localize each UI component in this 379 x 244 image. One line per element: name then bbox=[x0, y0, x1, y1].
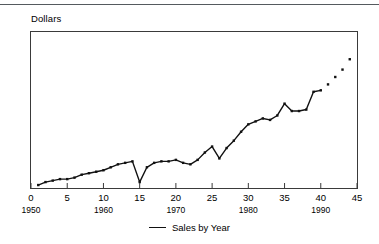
data-point-marker bbox=[341, 68, 343, 70]
data-point-marker bbox=[37, 184, 39, 186]
x-axis-year-label: 1990 bbox=[311, 205, 330, 215]
x-axis-tick-label: 45 bbox=[352, 192, 363, 203]
data-point-marker bbox=[298, 110, 300, 112]
x-axis-tick-marks bbox=[31, 183, 357, 188]
data-point-marker bbox=[291, 110, 293, 112]
chart-legend: Sales by Year bbox=[0, 222, 379, 233]
legend-series-label: Sales by Year bbox=[172, 222, 230, 233]
data-point-marker bbox=[211, 145, 213, 147]
data-point-marker bbox=[240, 131, 242, 133]
data-point-marker bbox=[269, 119, 271, 121]
data-point-marker bbox=[276, 114, 278, 116]
top-divider-rule bbox=[0, 4, 379, 5]
data-point-marker bbox=[117, 163, 119, 165]
data-point-marker bbox=[102, 169, 104, 171]
series-line-sales-by-year bbox=[38, 90, 321, 185]
chart-figure: Dollars 051015202530354045 1950196019701… bbox=[0, 0, 379, 244]
x-axis-tick-label: 20 bbox=[171, 192, 182, 203]
data-point-marker bbox=[247, 123, 249, 125]
data-point-marker bbox=[218, 157, 220, 159]
data-point-marker bbox=[327, 83, 329, 85]
data-point-marker bbox=[52, 179, 54, 181]
data-point-marker bbox=[262, 117, 264, 119]
data-point-marker bbox=[349, 58, 351, 60]
x-axis-tick-label: 5 bbox=[65, 192, 70, 203]
x-axis-year-label: 1950 bbox=[22, 205, 41, 215]
data-point-marker bbox=[81, 173, 83, 175]
data-point-marker bbox=[204, 151, 206, 153]
data-point-marker bbox=[73, 176, 75, 178]
data-point-marker bbox=[109, 166, 111, 168]
data-point-marker bbox=[138, 181, 140, 183]
data-point-marker bbox=[66, 178, 68, 180]
x-axis-tick-label: 30 bbox=[243, 192, 254, 203]
data-point-marker bbox=[153, 162, 155, 164]
plot-canvas bbox=[30, 31, 358, 189]
x-axis-tick-label: 15 bbox=[134, 192, 145, 203]
x-axis-year-label: 1980 bbox=[239, 205, 258, 215]
data-point-marker bbox=[95, 171, 97, 173]
x-axis-year-label: 1970 bbox=[166, 205, 185, 215]
data-point-marker bbox=[44, 181, 46, 183]
data-point-marker bbox=[146, 166, 148, 168]
data-point-marker bbox=[225, 147, 227, 149]
x-axis-tick-label: 35 bbox=[279, 192, 290, 203]
data-point-marker bbox=[189, 163, 191, 165]
data-point-marker bbox=[124, 162, 126, 164]
series-markers-sales-by-year bbox=[37, 58, 351, 186]
x-axis-tick-label: 25 bbox=[207, 192, 218, 203]
data-point-marker bbox=[182, 162, 184, 164]
data-point-marker bbox=[233, 139, 235, 141]
y-axis-title: Dollars bbox=[31, 13, 61, 24]
data-point-marker bbox=[88, 172, 90, 174]
x-axis-tick-label: 40 bbox=[315, 192, 326, 203]
legend-line-swatch bbox=[149, 227, 166, 228]
data-point-marker bbox=[305, 108, 307, 110]
x-axis-tick-label: 0 bbox=[28, 192, 33, 203]
data-point-marker bbox=[196, 159, 198, 161]
x-axis-tick-label: 10 bbox=[98, 192, 109, 203]
data-point-marker bbox=[131, 160, 133, 162]
data-point-marker bbox=[175, 159, 177, 161]
data-point-marker bbox=[59, 178, 61, 180]
data-point-marker bbox=[283, 102, 285, 104]
data-point-marker bbox=[320, 89, 322, 91]
data-point-marker bbox=[312, 91, 314, 93]
data-point-marker bbox=[167, 160, 169, 162]
series-line-path bbox=[38, 90, 321, 185]
x-axis-year-label: 1960 bbox=[94, 205, 113, 215]
data-point-marker bbox=[334, 76, 336, 78]
data-point-marker bbox=[254, 120, 256, 122]
data-point-marker bbox=[160, 160, 162, 162]
